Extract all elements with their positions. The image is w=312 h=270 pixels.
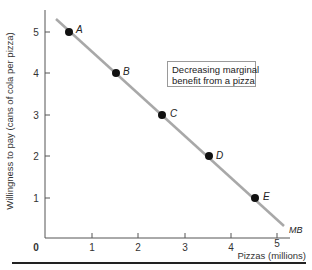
point-d xyxy=(205,152,213,160)
point-label-a: A xyxy=(75,24,83,35)
annotation-line-2: benefit from a pizza xyxy=(172,75,251,86)
point-label-e: E xyxy=(263,191,270,202)
x-tick-label: 3 xyxy=(182,242,188,253)
point-c xyxy=(158,111,166,119)
annotation-box: Decreasing marginal benefit from a pizza xyxy=(167,61,256,87)
y-tick-label: 5 xyxy=(33,27,39,38)
origin-label: 0 xyxy=(33,242,39,253)
y-axis-title: Willingness to pay (cans of cola per piz… xyxy=(4,32,15,209)
point-label-b: B xyxy=(123,66,130,77)
mb-label: MB xyxy=(289,225,303,235)
bottom-rule xyxy=(12,262,306,264)
y-tick-label: 4 xyxy=(33,68,39,79)
point-a xyxy=(65,28,73,36)
y-tick-label: 1 xyxy=(33,193,39,204)
x-tick-label: 1 xyxy=(89,242,95,253)
x-tick-label: 5 xyxy=(274,238,280,249)
y-tick-label: 2 xyxy=(33,151,39,162)
y-ticks xyxy=(45,32,50,198)
x-tick-label: 2 xyxy=(135,242,141,253)
point-label-d: D xyxy=(216,150,223,161)
mb-curve xyxy=(56,19,284,226)
x-axis-title: Pizzas (millions) xyxy=(237,250,306,261)
point-b xyxy=(112,69,120,77)
y-tick-label: 3 xyxy=(33,110,39,121)
x-ticks xyxy=(92,233,277,238)
point-e xyxy=(251,194,259,202)
point-label-c: C xyxy=(170,108,178,119)
chart-canvas: 5 4 3 2 1 0 1 2 3 4 5 Pizzas (millions) … xyxy=(0,0,312,270)
annotation-line-1: Decreasing marginal xyxy=(172,64,251,75)
x-tick-label: 4 xyxy=(228,242,234,253)
